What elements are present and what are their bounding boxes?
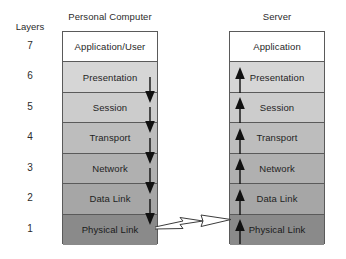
pc-layer-data-link: Data Link	[63, 184, 157, 214]
pc-layer-label: Application/User	[75, 41, 146, 52]
layer-number: 4	[8, 122, 52, 152]
pc-layer-network: Network	[63, 154, 157, 184]
pc-layer-label: Presentation	[83, 72, 138, 83]
srv-layer-transport: Transport	[230, 123, 324, 153]
layer-number: 1	[8, 214, 52, 244]
pc-layer-label: Session	[93, 102, 128, 113]
srv-layer-data-link: Data Link	[230, 184, 324, 214]
pc-layer-label: Data Link	[89, 193, 130, 204]
layer-number: 5	[8, 92, 52, 122]
layer-number: 7	[8, 31, 52, 61]
layer-number: 2	[8, 183, 52, 213]
layer-number: 3	[8, 153, 52, 183]
pc-layer-physical-link: Physical Link	[63, 215, 157, 245]
srv-layer-session: Session	[230, 93, 324, 123]
pc-layer-session: Session	[63, 93, 157, 123]
srv-layer-label: Physical Link	[249, 224, 306, 235]
srv-layer-label: Network	[259, 163, 295, 174]
pc-layer-application-user: Application/User	[63, 32, 157, 62]
pc-layer-label: Transport	[89, 132, 130, 143]
osi-layers-diagram: Personal Computer Server Layers 7 6 5 4 …	[0, 0, 346, 259]
arrow-right-outlined-icon	[155, 215, 231, 229]
srv-layer-presentation: Presentation	[230, 62, 324, 92]
server-stack: Application Presentation Session Transpo…	[229, 31, 325, 244]
srv-layer-label: Application	[253, 41, 301, 52]
personal-computer-stack: Application/User Presentation Session Tr…	[62, 31, 158, 244]
pc-layer-label: Network	[92, 163, 128, 174]
srv-layer-label: Transport	[256, 132, 297, 143]
layer-number: 6	[8, 61, 52, 91]
layer-number-column: 7 6 5 4 3 2 1	[8, 31, 52, 244]
pc-layer-transport: Transport	[63, 123, 157, 153]
physical-link-connector	[155, 208, 235, 236]
srv-layer-label: Presentation	[250, 72, 305, 83]
srv-layer-network: Network	[230, 154, 324, 184]
server-title: Server	[229, 11, 325, 22]
pc-layer-label: Physical Link	[82, 224, 139, 235]
pc-layer-presentation: Presentation	[63, 62, 157, 92]
srv-layer-label: Session	[260, 102, 295, 113]
srv-layer-application: Application	[230, 32, 324, 62]
srv-layer-physical-link: Physical Link	[230, 215, 324, 245]
srv-layer-label: Data Link	[256, 193, 297, 204]
personal-computer-title: Personal Computer	[62, 11, 158, 22]
